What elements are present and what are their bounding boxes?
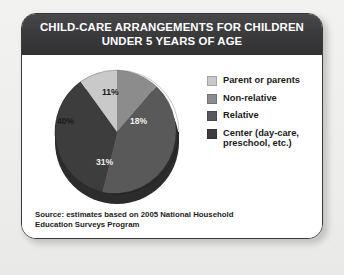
pie-chart-svg (32, 60, 202, 215)
legend-item-non-relative: Non-relative (207, 93, 319, 104)
legend-label-relative: Relative (223, 110, 259, 121)
legend-label-parent: Parent or parents (223, 75, 300, 86)
pie-label-18: 18% (130, 116, 147, 126)
chart-card: CHILD-CARE ARRANGEMENTS FOR CHILDREN UND… (21, 13, 323, 239)
legend-item-relative: Relative (207, 110, 319, 121)
legend-label-center: Center (day-care, preschool, etc.) (223, 128, 299, 149)
pie-chart: 11% 18% 31% 40% (32, 60, 202, 215)
legend-item-parent-or-parents: Parent or parents (207, 75, 319, 86)
legend-swatch-parent-icon (207, 76, 217, 86)
chart-title: CHILD-CARE ARRANGEMENTS FOR CHILDREN UND… (40, 21, 304, 48)
chart-body: 11% 18% 31% 40% Parent or parents Non-re… (22, 55, 322, 239)
pie-label-40: 40% (57, 116, 74, 126)
legend-item-center: Center (day-care, preschool, etc.) (207, 128, 319, 149)
chart-header: CHILD-CARE ARRANGEMENTS FOR CHILDREN UND… (22, 14, 322, 55)
pie-label-31: 31% (96, 157, 113, 167)
legend-swatch-center-icon (207, 129, 217, 139)
legend-label-non-relative: Non-relative (223, 93, 277, 104)
chart-legend: Parent or parents Non-relative Relative … (207, 75, 319, 155)
pie-label-11: 11% (102, 87, 119, 97)
page-background: CHILD-CARE ARRANGEMENTS FOR CHILDREN UND… (0, 0, 344, 275)
source-note: Source: estimates based on 2005 National… (35, 210, 295, 230)
legend-swatch-relative-icon (207, 111, 217, 121)
legend-swatch-non-relative-icon (207, 94, 217, 104)
